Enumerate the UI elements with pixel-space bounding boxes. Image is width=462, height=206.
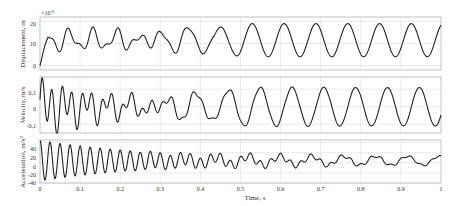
xtick-label: 0.6	[277, 186, 285, 192]
y-axis-label-acceleration: Acceleration, m/s2	[19, 136, 27, 188]
xtick-label: 0	[39, 186, 42, 192]
exponent-label: ×10-6	[41, 9, 55, 16]
xtick-label: 0.2	[116, 186, 124, 192]
xtick-label: 0.3	[157, 186, 165, 192]
xtick-label: 0.7	[317, 186, 325, 192]
ytick-label: 20	[30, 155, 36, 161]
ytick-label: 0	[33, 63, 36, 69]
ytick-label: 20	[30, 21, 36, 27]
y-axis-label-velocity: Velocity, m/s	[19, 86, 27, 123]
xtick-label: 0.4	[197, 186, 205, 192]
ytick-label: 0	[33, 164, 36, 170]
x-axis-label: Time, s	[245, 194, 266, 202]
ytick-label: -20	[28, 172, 36, 178]
x-axis-ticks: 00.10.20.30.40.50.60.70.80.91	[39, 186, 443, 192]
chart-figure: 20 10 0 ×10-6 Displacement, m 0,1 0 -0,1…	[0, 0, 462, 206]
ytick-label: -40	[28, 180, 36, 186]
ytick-label: 40	[30, 146, 36, 152]
xtick-label: 0.8	[357, 186, 365, 192]
velocity-panel: 0,1 0 -0,1 Velocity, m/s	[19, 77, 441, 133]
xtick-label: 0.9	[397, 186, 405, 192]
ytick-label: 0	[33, 106, 36, 112]
xtick-label: 0.5	[237, 186, 245, 192]
xtick-label: 1	[440, 186, 443, 192]
ytick-label: 0,1	[29, 90, 37, 96]
y-axis-label-displacement: Displacement, m	[19, 20, 27, 68]
xtick-label: 0.1	[76, 186, 84, 192]
displacement-panel: 20 10 0 ×10-6 Displacement, m	[19, 9, 441, 70]
ytick-label: 10	[30, 41, 36, 47]
acceleration-panel: 40 20 0 -20 -40 Acceleration, m/s2	[19, 136, 441, 188]
ytick-label: -0,1	[27, 123, 37, 129]
